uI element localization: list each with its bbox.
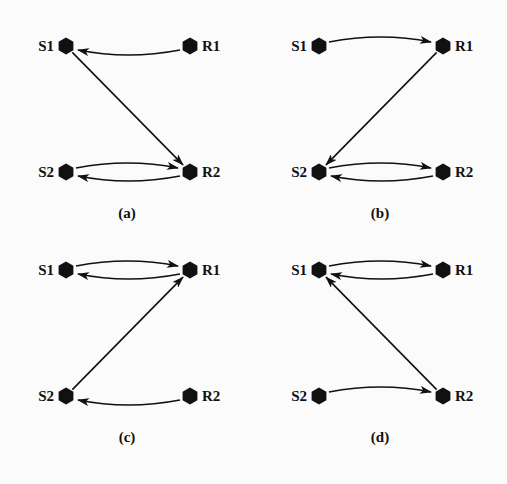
node-label-s1: S1 (291, 38, 307, 54)
node-label-s1: S1 (38, 262, 54, 278)
panel-caption: (b) (371, 205, 389, 222)
edge-s2-to-r2 (76, 163, 178, 168)
panel-a: S1R1S2R2(a) (38, 38, 220, 223)
node-label-s2: S2 (291, 388, 307, 404)
edge-r1-to-s2 (326, 52, 437, 164)
node-s1 (59, 38, 74, 55)
edge-r2-to-s2 (331, 176, 433, 181)
panel-caption: (c) (119, 429, 136, 446)
node-label-r2: R2 (202, 388, 220, 404)
node-label-s2: S2 (38, 388, 54, 404)
node-label-r2: R2 (455, 164, 473, 180)
edge-s1-to-r1 (76, 261, 178, 266)
edge-s2-to-r2 (329, 163, 431, 168)
node-label-r2: R2 (202, 164, 220, 180)
edge-r2-to-s2 (78, 176, 180, 181)
edge-r2-to-s2 (78, 400, 180, 405)
node-s1 (59, 262, 74, 279)
node-label-s1: S1 (291, 262, 307, 278)
node-r2 (183, 388, 198, 405)
node-label-s1: S1 (38, 38, 54, 54)
node-r2 (436, 164, 451, 181)
panel-c: S1R1S2R2(c) (38, 261, 220, 446)
edge-s1-to-r1 (329, 37, 431, 42)
node-s2 (59, 388, 74, 405)
node-r1 (436, 262, 451, 279)
panel-caption: (a) (118, 205, 136, 222)
edge-r1-to-s1 (78, 50, 180, 55)
panel-b: S1R1S2R2(b) (291, 37, 473, 222)
node-label-r1: R1 (202, 38, 220, 54)
node-s1 (312, 38, 327, 55)
node-label-r1: R1 (455, 262, 473, 278)
node-label-r1: R1 (202, 262, 220, 278)
edge-s2-to-r2 (329, 387, 431, 392)
node-s1 (312, 262, 327, 279)
relay-diagram-figure: S1R1S2R2(a)S1R1S2R2(b)S1R1S2R2(c)S1R1S2R… (0, 0, 507, 484)
node-r2 (183, 164, 198, 181)
node-r1 (436, 38, 451, 55)
edge-s1-to-r2 (72, 52, 183, 164)
node-label-r2: R2 (455, 388, 473, 404)
node-label-s2: S2 (38, 164, 54, 180)
node-r1 (183, 38, 198, 55)
node-r2 (436, 388, 451, 405)
edge-s1-to-r1 (329, 261, 431, 266)
node-r1 (183, 262, 198, 279)
node-label-r1: R1 (455, 38, 473, 54)
edge-r2-to-s1 (326, 277, 437, 389)
node-label-s2: S2 (291, 164, 307, 180)
node-s2 (312, 388, 327, 405)
edge-r1-to-s1 (78, 274, 180, 279)
edge-s2-to-r1 (72, 277, 183, 389)
panel-caption: (d) (371, 429, 389, 446)
node-s2 (59, 164, 74, 181)
panel-d: S1R1S2R2(d) (291, 261, 473, 446)
edge-r1-to-s1 (331, 274, 433, 279)
node-s2 (312, 164, 327, 181)
